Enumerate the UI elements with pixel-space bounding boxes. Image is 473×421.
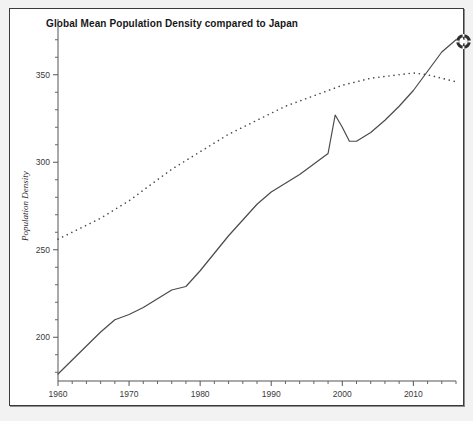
y-tick-label: 250 [36,245,50,255]
x-tick-label: 1970 [120,389,139,399]
chart-plot-area: 200250300350196019701980199020002010 Yea… [10,9,465,407]
spinner-gear-icon[interactable] [456,34,471,49]
x-axis-title: Year [249,405,266,407]
x-tick-label: 2000 [333,389,352,399]
series-group [58,40,456,374]
chart-frame: Global Mean Population Density compared … [9,8,464,406]
y-tick-label: 300 [36,157,50,167]
axis-titles-group: YearPopulation Density [20,171,266,407]
x-tick-label: 1980 [191,389,210,399]
chart-window: Global Mean Population Density compared … [0,0,473,421]
y-axis-title: Population Density [20,171,30,242]
series-line-dotted [58,73,456,239]
x-tick-label: 1960 [49,389,68,399]
x-tick-label: 1990 [262,389,281,399]
y-tick-label: 200 [36,332,50,342]
y-tick-label: 350 [36,70,50,80]
series-line-solid [58,40,456,374]
x-tick-label: 2010 [404,389,423,399]
axes-group: 200250300350196019701980199020002010 [36,19,456,399]
